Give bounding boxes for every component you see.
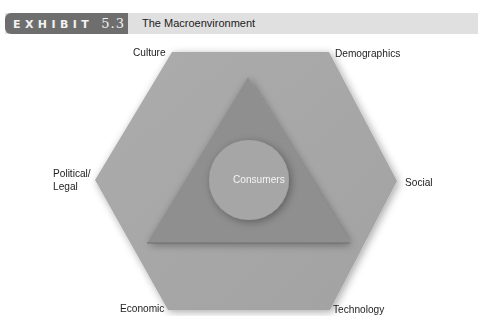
macroenvironment-diagram	[0, 0, 484, 316]
label-political: Political/	[53, 167, 91, 180]
label-technology: Technology	[333, 303, 384, 316]
label-legal: Legal	[53, 180, 78, 193]
label-economic: Economic	[120, 302, 164, 315]
label-demographics: Demographics	[335, 47, 400, 60]
consumers-label: Consumers	[233, 173, 285, 186]
label-social: Social	[405, 176, 433, 189]
label-culture: Culture	[133, 46, 166, 59]
